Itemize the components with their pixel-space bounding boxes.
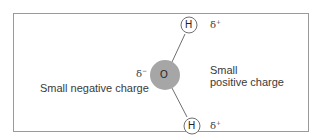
oxygen-charge: δ− — [136, 67, 147, 79]
negative-charge-label: Small negative charge — [40, 82, 149, 94]
positive-charge-label-line1: Small — [210, 64, 238, 76]
hydrogen-top-charge: δ+ — [210, 18, 221, 30]
positive-charge-label-line2: positive charge — [210, 76, 284, 88]
hydrogen-top-label: H — [185, 19, 192, 31]
oxygen-label: O — [160, 69, 168, 81]
hydrogen-bottom-label: H — [188, 120, 195, 132]
bond-bottom — [172, 88, 187, 117]
hydrogen-bottom-charge: δ+ — [210, 119, 221, 131]
bond-top — [172, 34, 185, 62]
